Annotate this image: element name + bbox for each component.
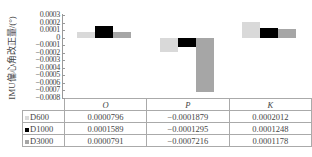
- y-tick-mark: [62, 98, 65, 99]
- table-cell: −0.0001295: [147, 123, 229, 135]
- bar-d600-o: [77, 32, 95, 38]
- y-tick-mark: [62, 60, 65, 61]
- y-tick-mark: [62, 30, 65, 31]
- legend-swatch-d3000: [25, 140, 29, 144]
- header-k: K: [229, 99, 311, 111]
- data-table: O P K D600 0.0000796 −0.0001879 0.000201…: [22, 98, 312, 147]
- bar-d3000-o: [113, 32, 131, 38]
- table-cell: 0.0000791: [64, 135, 146, 147]
- header-p: P: [147, 99, 229, 111]
- bar-d600-k: [242, 22, 260, 37]
- row-label: D1000: [30, 124, 53, 134]
- row-label: D3000: [30, 136, 53, 146]
- table-cell: 0.0002012: [229, 111, 311, 123]
- table-cell: −0.0007216: [147, 135, 229, 147]
- table-row: D3000 0.0000791 −0.0007216 0.0001178: [23, 135, 312, 147]
- bar-d1000-p: [178, 38, 196, 48]
- y-tick-mark: [62, 90, 65, 91]
- table-cell: 0.0001589: [64, 123, 146, 135]
- bar-d3000-k: [278, 29, 296, 38]
- y-tick-mark: [62, 15, 65, 16]
- table-cell: −0.0001879: [147, 111, 229, 123]
- bar-d1000-k: [260, 28, 278, 37]
- y-tick-mark: [62, 75, 65, 76]
- y-tick-mark: [62, 83, 65, 84]
- table-cell: 0.0000796: [64, 111, 146, 123]
- y-tick-mark: [62, 45, 65, 46]
- bar-d1000-o: [95, 26, 113, 38]
- table-header-row: O P K: [23, 99, 312, 111]
- y-axis-label: IMU偏心角改正量/(°): [5, 13, 17, 103]
- y-tick-mark: [62, 53, 65, 54]
- legend-swatch-d600: [25, 116, 29, 120]
- y-tick-mark: [62, 38, 65, 39]
- table-cell: 0.0001248: [229, 123, 311, 135]
- table-row: D1000 0.0001589 −0.0001295 0.0001248: [23, 123, 312, 135]
- y-tick-mark: [62, 68, 65, 69]
- bar-d3000-p: [196, 38, 214, 92]
- y-axis-line: [62, 14, 63, 98]
- bar-d600-p: [160, 38, 178, 52]
- row-label: D600: [30, 112, 49, 122]
- y-tick-mark: [62, 23, 65, 24]
- legend-swatch-d1000: [25, 128, 29, 132]
- table-row: D600 0.0000796 −0.0001879 0.0002012: [23, 111, 312, 123]
- table-cell: 0.0001178: [229, 135, 311, 147]
- header-o: O: [64, 99, 146, 111]
